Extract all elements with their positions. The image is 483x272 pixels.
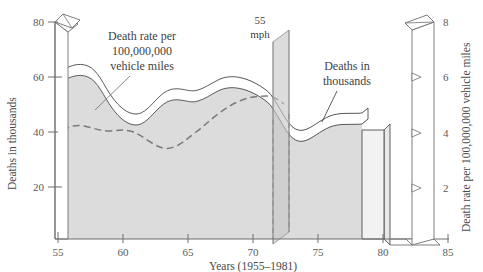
x-tick-65: 65 [183, 246, 195, 258]
x-tick-70: 70 [248, 246, 260, 258]
deaths-annotation-line2: thousands [323, 74, 371, 88]
speed-limit-line2: mph [250, 28, 270, 40]
death-rate-annotation-line3: vehicle miles [110, 59, 174, 73]
chart-figure: 80 60 40 20 Deaths in thousands 55 60 65… [0, 0, 483, 272]
traffic-deaths-chart: 80 60 40 20 Deaths in thousands 55 60 65… [0, 0, 483, 272]
deaths-annotation-line1: Deaths in [324, 59, 370, 73]
x-tick-75: 75 [313, 246, 325, 258]
right-axis-title: Death rate per 100,000,000 vehicle miles [460, 42, 473, 232]
right-tick-2: 2 [443, 182, 449, 194]
death-rate-annotation-line1: Death rate per [108, 29, 176, 43]
x-tick-55: 55 [53, 246, 65, 258]
bottom-axis-title: Years (1955–1981) [209, 260, 297, 272]
right-tick-8: 8 [443, 16, 449, 28]
right-tick-4: 4 [443, 127, 449, 139]
left-tick-60: 60 [33, 71, 45, 83]
right-tick-6: 6 [443, 71, 449, 83]
death-rate-annotation-line2: 100,000,000 [112, 44, 172, 58]
x-tick-85: 85 [443, 246, 455, 258]
left-tick-20: 20 [33, 181, 45, 193]
x-tick-60: 60 [118, 246, 130, 258]
right-axis: 8 6 4 2 [390, 15, 449, 245]
left-tick-40: 40 [33, 126, 45, 138]
speed-limit-slab [273, 30, 289, 244]
left-axis-title: Deaths in thousands [6, 97, 18, 190]
speed-limit-line1: 55 [255, 14, 267, 26]
data-solid-endcap [362, 124, 390, 245]
x-tick-80: 80 [378, 246, 390, 258]
left-tick-80: 80 [33, 16, 45, 28]
speed-limit-annotation: 55 mph [250, 14, 270, 40]
